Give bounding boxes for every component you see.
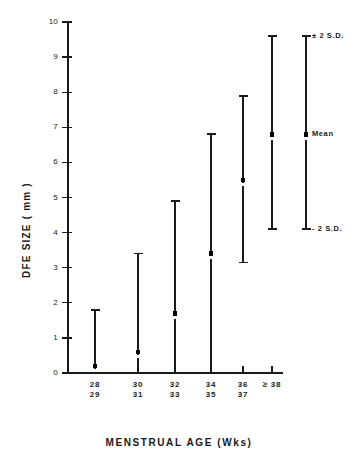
legend-cap-upper bbox=[302, 35, 311, 37]
chart-legend: ± 2 S.D.Mean- 2 S.D. bbox=[0, 0, 358, 430]
x-axis-title: MENSTRUAL AGE (Wks) bbox=[0, 437, 358, 448]
legend-mean-marker-gap bbox=[305, 137, 308, 140]
legend-mean-marker bbox=[304, 132, 308, 136]
chart-figure: DFE SIZE ( mm ) 012345678910 28293031323… bbox=[0, 0, 358, 461]
legend-label-plus-2-sd: ± 2 S.D. bbox=[312, 31, 344, 40]
legend-cap-lower bbox=[302, 228, 311, 230]
legend-label-minus-2-sd: - 2 S.D. bbox=[312, 224, 342, 233]
legend-label-mean: Mean bbox=[312, 129, 334, 138]
